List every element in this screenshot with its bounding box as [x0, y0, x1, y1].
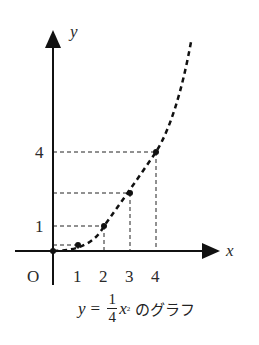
- caption-denominator: 4: [108, 310, 116, 325]
- y-tick-4: 4: [35, 143, 44, 162]
- origin-label: O: [27, 267, 39, 286]
- x-tick-4: 4: [151, 267, 160, 286]
- x-axis-label: x: [225, 241, 234, 260]
- caption-lhs: y: [78, 299, 86, 319]
- caption-equals: =: [91, 299, 101, 319]
- x-tick-1: 1: [73, 267, 82, 286]
- y-axis-label: y: [68, 22, 78, 41]
- caption-suffix: のグラフ: [135, 298, 195, 319]
- parabola-curve: [53, 42, 191, 251]
- y-tick-1: 1: [35, 217, 44, 236]
- x-tick-3: 3: [125, 267, 134, 286]
- caption-exponent: 2: [127, 305, 131, 313]
- caption-numerator: 1: [108, 292, 116, 307]
- chart-caption: y = 1 4 x2 のグラフ: [78, 292, 195, 325]
- data-points: [50, 149, 159, 254]
- guide-lines: [53, 152, 156, 251]
- caption-fraction: 1 4: [107, 292, 117, 325]
- caption-var: x: [119, 299, 127, 319]
- x-tick-2: 2: [99, 267, 108, 286]
